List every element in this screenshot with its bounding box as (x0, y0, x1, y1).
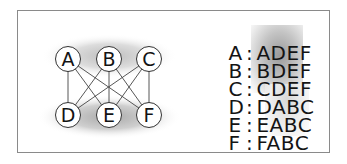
adjacency-row-e: E:EABC (203, 98, 312, 116)
adjacency-row-f: F:FABC (203, 116, 309, 134)
adjacency-row-b: B:BDEF (203, 44, 312, 62)
node-label: D (61, 104, 76, 126)
node-d: D (56, 103, 81, 128)
row-key: F (228, 134, 242, 152)
node-a: A (56, 47, 81, 72)
node-label: A (62, 48, 75, 70)
adjacency-row-c: C:CDEF (203, 62, 312, 80)
row-separator: : (242, 134, 256, 152)
node-label: C (142, 48, 155, 70)
node-c: C (137, 47, 162, 72)
adjacency-list: A:ADEF B:BDEF C:CDEF D:DABC E:EABC F:FAB… (203, 24, 313, 136)
row-neighbors: FABC (256, 134, 309, 152)
node-label: F (144, 104, 155, 126)
node-b: B (97, 47, 122, 72)
adjacency-row-a: A:ADEF (203, 26, 312, 44)
adjacency-row-d: D:DABC (203, 80, 315, 98)
node-f: F (137, 103, 162, 128)
node-label: E (103, 104, 115, 126)
node-label: B (102, 48, 115, 70)
node-e: E (97, 103, 122, 128)
